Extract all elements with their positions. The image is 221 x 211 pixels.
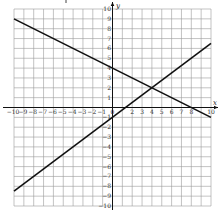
x-tick-label: −2 xyxy=(87,108,96,115)
y-tick-label: 7 xyxy=(107,35,111,42)
x-tick-label: −4 xyxy=(68,108,77,115)
x-tick-label: 2 xyxy=(130,108,134,115)
x-tick-label: 5 xyxy=(160,108,164,115)
y-tick-label: 3 xyxy=(107,74,111,81)
y-tick-label: −4 xyxy=(102,143,111,150)
y-tick-label: −7 xyxy=(102,172,111,179)
y-tick-label: 6 xyxy=(107,44,111,51)
x-axis-label: x xyxy=(213,99,217,107)
y-tick-label: −8 xyxy=(102,182,111,189)
x-tick-label: −3 xyxy=(78,108,87,115)
y-tick-label: 1 xyxy=(107,94,111,101)
x-tick-label: 0 xyxy=(111,108,115,115)
x-tick-label: −7 xyxy=(38,108,47,115)
y-tick-label: −5 xyxy=(102,153,111,160)
x-tick-label: 3 xyxy=(140,108,144,115)
y-tick-label: 10 xyxy=(103,5,111,12)
x-tick-label: −8 xyxy=(28,108,37,115)
coordinate-plane: −10−9−8−7−6−5−4−3−2−10234567810109876543… xyxy=(0,0,221,211)
x-tick-label: 4 xyxy=(150,108,154,115)
y-tick-label: 5 xyxy=(107,54,111,61)
y-tick-label: 8 xyxy=(107,25,111,32)
x-tick-label: −5 xyxy=(58,108,67,115)
x-tick-label: 7 xyxy=(180,108,184,115)
x-tick-label: 6 xyxy=(170,108,174,115)
y-tick-label: −6 xyxy=(102,163,111,170)
y-tick-label: −9 xyxy=(102,192,111,199)
x-tick-label: −6 xyxy=(48,108,57,115)
y-tick-label: −3 xyxy=(102,133,111,140)
y-tick-label: −10 xyxy=(98,202,111,209)
y-tick-label: 9 xyxy=(107,15,111,22)
y-axis-arrow-icon xyxy=(111,2,115,6)
x-tick-label: 10 xyxy=(207,108,215,115)
x-tick-label: −9 xyxy=(18,108,27,115)
y-tick-label: 2 xyxy=(107,84,111,91)
